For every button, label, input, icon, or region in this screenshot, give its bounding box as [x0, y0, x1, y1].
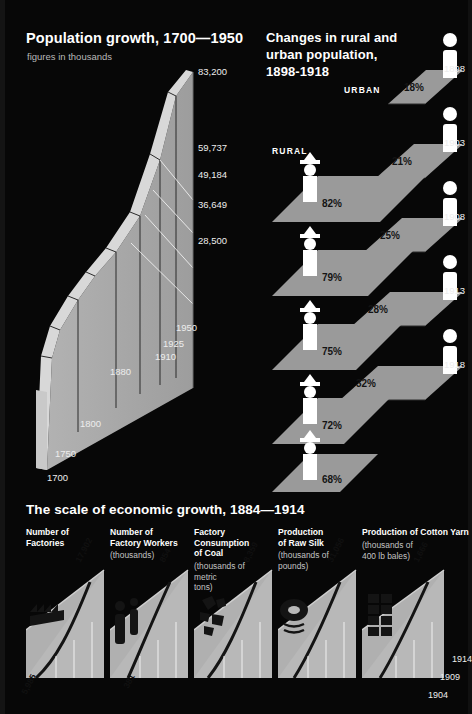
population-value-83200: 83,200 [198, 66, 227, 77]
rural-pct-1918: 68% [322, 474, 342, 485]
rural-urban-panel: Changes in rural and urban population, 1… [258, 0, 472, 492]
col-note-cotton: (thousands of 400 lb bales) [362, 540, 413, 561]
economic-growth-panel: The scale of economic growth, 1884—1914 … [0, 492, 472, 714]
chart-coal [194, 560, 286, 678]
col-head-workers: Number of Factory Workers [110, 527, 178, 548]
col-head-cotton: Production of Cotton Yarn [362, 527, 469, 538]
chart-factories [26, 560, 118, 678]
rural-figure-1913 [300, 374, 320, 424]
population-year-1700: 1700 [47, 472, 68, 483]
ru-year-1918: 1918 [444, 359, 465, 370]
rural-band-1918 [272, 454, 378, 492]
ru-year-1913: 1913 [444, 285, 465, 296]
population-year-1950: 1950 [176, 322, 197, 333]
urban-pct-1903: 21% [392, 156, 412, 167]
rural-figure-1908 [300, 300, 320, 350]
infographic-page: Population growth, 1700—1950 figures in … [0, 0, 472, 714]
population-year-1800: 1800 [80, 418, 101, 429]
rural-pct-1903: 79% [322, 272, 342, 283]
rural-figure-1903 [300, 226, 320, 276]
col-head-factories: Number of Factories [26, 527, 69, 548]
population-value-28500: 28,500 [198, 235, 227, 246]
population-left-cap [36, 390, 47, 470]
rural-urban-bands [258, 0, 472, 492]
col-head-coal: Factory Consumption of Coal [194, 527, 249, 559]
ru-year-1903: 1903 [444, 137, 465, 148]
rural-band-1898 [272, 176, 426, 222]
ru-year-1898: 1898 [444, 63, 465, 74]
panel3-title: The scale of economic growth, 1884—1914 [26, 502, 305, 517]
rural-pct-1913: 72% [322, 420, 342, 431]
population-year-1925: 1925 [163, 338, 184, 349]
population-growth-panel: Population growth, 1700—1950 figures in … [0, 0, 258, 492]
col-note-workers: (thousands) [110, 550, 154, 561]
urban-pct-1918: 32% [356, 378, 376, 389]
population-value-59737: 59,737 [198, 142, 227, 153]
ru-year-1908: 1908 [444, 211, 465, 222]
urban-pct-1898: 18% [404, 82, 424, 93]
col-bottom-factories: 5,985 [19, 672, 38, 696]
rural-figure-1898 [300, 152, 320, 202]
econ-year-1914: 1914 [452, 654, 472, 664]
population-value-49184: 49,184 [198, 169, 227, 180]
col-head-silk: Production of Raw Silk [278, 527, 324, 548]
urban-pct-1908: 25% [380, 230, 400, 241]
population-year-1750: 1750 [55, 448, 76, 459]
rural-pct-1908: 75% [322, 346, 342, 357]
population-year-1910: 1910 [155, 351, 176, 362]
rural-pct-1898: 82% [322, 198, 342, 209]
population-body [47, 72, 193, 470]
chart-workers [110, 560, 202, 678]
population-year-1880: 1880 [110, 366, 131, 377]
population-value-36649: 36,649 [198, 199, 227, 210]
econ-year-1909: 1909 [440, 672, 460, 682]
econ-year-1904: 1904 [428, 690, 448, 700]
urban-pct-1913: 28% [368, 304, 388, 315]
rural-band-1903 [272, 250, 414, 296]
chart-silk [278, 560, 370, 678]
chart-cotton [362, 560, 462, 678]
